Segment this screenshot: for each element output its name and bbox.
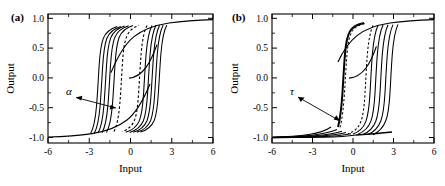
panel-b-envelope-upper	[338, 20, 434, 62]
panel-b: (b)	[222, 0, 444, 186]
panel-a-curves	[48, 20, 213, 137]
panel-a-x-ticklabels: -6 -3 0 3 6	[44, 147, 216, 157]
panel-b-ytick-3: -0.5	[253, 103, 268, 113]
panel-b-annotation-symbol: τ	[290, 85, 295, 97]
panel-b-ytick-2: 0.0	[256, 73, 268, 83]
panel-b-ytick-4: -1.0	[253, 133, 268, 143]
panel-a-y-axis-label: Output	[4, 63, 16, 94]
panel-b-ytick-0: 1.0	[256, 14, 268, 24]
panel-a-tag: (a)	[11, 11, 24, 23]
panel-a-plot: -6 -3 0 3 6 1.0 0.5 0.0 -0.5 -1.0 Input …	[0, 0, 222, 186]
panel-b-x-ticks	[272, 14, 434, 143]
panel-b-axes-frame	[272, 14, 434, 143]
panel-b-x-axis-label: Input	[341, 162, 364, 174]
panel-b-curves	[272, 20, 434, 138]
panel-a-xtick-4: 6	[211, 147, 216, 157]
panel-b-y-ticklabels: 1.0 0.5 0.0 -0.5 -1.0	[253, 14, 268, 143]
panel-b-xtick-0: -6	[268, 147, 276, 157]
panel-a-ytick-0: 1.0	[32, 14, 44, 24]
panel-b-xtick-3: 3	[391, 147, 396, 157]
panel-a-ytick-2: 0.0	[32, 73, 44, 83]
panel-a-ytick-1: 0.5	[32, 43, 44, 53]
panel-a: (a)	[0, 0, 222, 186]
panel-a-loop-dashed-descending	[122, 26, 147, 132]
panel-a-xtick-3: 3	[169, 147, 174, 157]
panel-a-xtick-2: 0	[128, 147, 133, 157]
panel-b-xtick-1: -3	[309, 147, 317, 157]
hysteresis-figure: (a)	[0, 0, 445, 186]
panel-a-ytick-4: -1.0	[29, 133, 44, 143]
panel-b-annotation: τ	[290, 85, 340, 122]
panel-b-x-ticklabels: -6 -3 0 3 6	[268, 147, 437, 157]
panel-a-y-ticklabels: 1.0 0.5 0.0 -0.5 -1.0	[29, 14, 44, 143]
panel-b-plot: -6 -3 0 3 6 1.0 0.5 0.0 -0.5 -1.0 Input …	[222, 0, 445, 186]
panel-a-annotation-symbol: α	[66, 85, 72, 97]
panel-b-y-axis-label: Output	[228, 63, 240, 94]
panel-a-x-axis-label: Input	[119, 162, 142, 174]
panel-b-ascending-branch-bundle	[338, 23, 364, 127]
panel-a-xtick-0: -6	[44, 147, 52, 157]
panel-a-ytick-3: -0.5	[29, 103, 44, 113]
panel-a-envelope-lower	[48, 84, 150, 137]
panel-b-xtick-4: 6	[432, 147, 437, 157]
panel-b-ytick-1: 0.5	[256, 43, 268, 53]
panel-b-xtick-2: 0	[351, 147, 356, 157]
panel-b-tag: (b)	[232, 11, 245, 23]
panel-a-xtick-1: -3	[85, 147, 93, 157]
panel-b-loop-dashed-descending	[348, 25, 373, 133]
